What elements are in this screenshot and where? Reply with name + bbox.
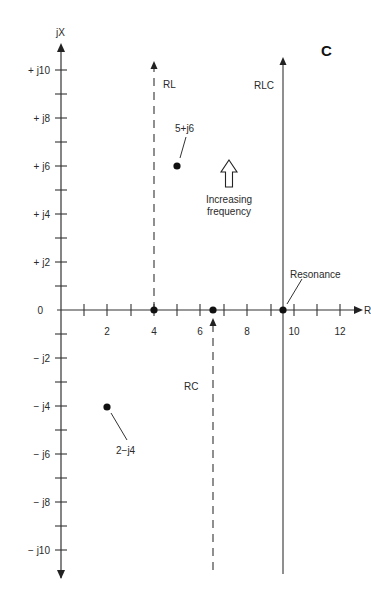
annotation-line2: frequency [207,206,251,217]
y-tick-label: − j6 [34,449,51,460]
rl-locus: RL [151,61,177,310]
point-2-j4-label: 2−j4 [116,445,136,456]
y-axis-label: jX [55,27,65,38]
panel-label: C [321,42,332,59]
y-tick-label: + j10 [28,65,50,76]
rlc-arrow-icon [280,57,287,65]
rl-label: RL [163,79,176,90]
x-tick-label: 4 [151,326,157,337]
point-5-j6: 5+j6 [173,123,194,170]
x-axis-label: R [364,305,371,316]
rlc-locus: RLC [254,57,287,574]
annotation-line1: Increasing [206,194,252,205]
y-axis-down-arrow-icon [57,570,65,579]
x-tick-label: 10 [288,326,300,337]
rlc-label: RLC [254,80,274,91]
y-tick-label: + j4 [34,209,51,220]
y-tick-label: + j6 [34,161,51,172]
point-2-j4: 2−j4 [103,403,135,456]
y-tick-label: 0 [37,305,43,316]
point-rc-origin [209,306,216,313]
x-tick-label: 6 [197,326,203,337]
rl-arrow-icon [151,61,158,69]
rc-arrow-icon [210,318,217,326]
x-tick-label: 12 [334,326,346,337]
y-tick-label: + j2 [34,257,51,268]
x-tick-label: 8 [244,326,250,337]
impedance-plane-diagram: C jX + j10 [0,0,371,590]
point-5-j6-label: 5+j6 [175,123,195,134]
y-tick-label: − j10 [28,545,50,556]
y-tick-label: − j8 [34,497,51,508]
y-axis: jX + j10 + j8 + j6 + j4 [28,27,67,579]
y-tick-label: − j4 [34,401,51,412]
resonance-label: Resonance [290,269,341,280]
y-axis-up-arrow-icon [57,43,65,52]
increasing-frequency-annotation: Increasing frequency [206,160,252,217]
y-tick-label: + j8 [34,113,51,124]
x-tick-label: 2 [104,326,110,337]
point-resonance: Resonance [279,269,341,314]
x-axis-arrow-icon [354,306,363,314]
up-arrow-icon [221,160,237,187]
rc-locus: RC [184,318,217,570]
y-tick-label: − j2 [34,353,51,364]
point-rl-origin [150,306,157,313]
rc-label: RC [184,381,198,392]
